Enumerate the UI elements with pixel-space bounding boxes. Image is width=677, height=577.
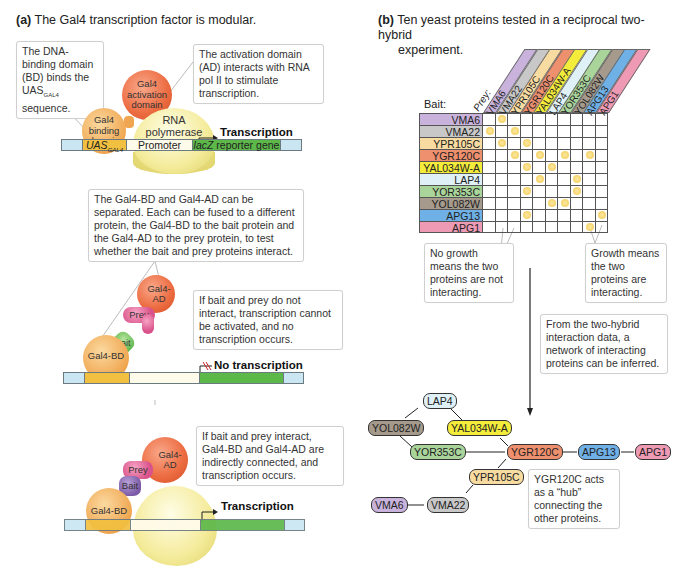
grid-cell (583, 197, 596, 209)
grid-cell (521, 221, 534, 233)
grid-cell (521, 149, 534, 161)
grid-cell (496, 149, 509, 161)
callout-separated: The Gal4-BD and Gal4-AD can be separated… (88, 189, 304, 262)
grid-cell (546, 209, 559, 221)
grid-cell (496, 197, 509, 209)
grid-cell (571, 137, 584, 149)
promoter-segment: Promoter (127, 140, 193, 150)
node-apg1: APG1 (635, 444, 671, 460)
grid-cell (583, 137, 596, 149)
growth-dot (548, 163, 556, 171)
grid-cell (558, 113, 571, 125)
grid-cell (571, 125, 584, 137)
callout-no-growth: No growth means the two proteins are not… (424, 243, 514, 303)
grid-cell (533, 125, 546, 137)
grid-cell (596, 185, 609, 197)
growth-dot (598, 211, 606, 219)
reporter-segment: lacZ reporter gene (193, 140, 281, 150)
grid-cell (571, 161, 584, 173)
node-yor353c: YOR353C (410, 444, 466, 460)
grid-cell (571, 113, 584, 125)
growth-dot (573, 187, 581, 195)
bait-label-apg1: APG1 (419, 221, 483, 233)
grid-cell (558, 173, 571, 185)
dna-strand-2 (63, 372, 304, 384)
grid-cell (483, 185, 496, 197)
callout-bd-sub: GAL4 (44, 92, 59, 98)
callout-no-interact: If bait and prey do not interact, transc… (193, 290, 343, 350)
bait-label-ypr105c: YPR105C (419, 137, 483, 149)
grid-cell (546, 173, 559, 185)
uas-segment (86, 520, 131, 530)
grid-cell (596, 197, 609, 209)
growth-dot (498, 139, 506, 147)
grid-cell (583, 161, 596, 173)
callout-binding-domain: The DNA-binding domain (BD) binds the UA… (16, 41, 104, 119)
grid-cell (508, 161, 521, 173)
grid-cell (508, 221, 521, 233)
grid-cell (558, 221, 571, 233)
grid-cell (508, 185, 521, 197)
grid-cell (533, 113, 546, 125)
node-ypr105c: YPR105C (469, 469, 524, 485)
grid-cell (508, 137, 521, 149)
grid-cell (533, 137, 546, 149)
growth-dot (523, 139, 531, 147)
no-transcription-label: No transcription (214, 359, 303, 371)
grid-cell (546, 185, 559, 197)
grid-cell (571, 149, 584, 161)
grid-cell (521, 113, 534, 125)
grid-cell (533, 161, 546, 173)
grid-cell (496, 209, 509, 221)
dna-spacer (285, 520, 304, 530)
node-vma6: VMA6 (371, 497, 408, 513)
grid-cell (558, 209, 571, 221)
grid-cell (558, 185, 571, 197)
node-lap4: LAP4 (423, 393, 457, 409)
grid-cell (496, 173, 509, 185)
grid-cell (596, 113, 609, 125)
grid-cell (508, 197, 521, 209)
growth-dot (498, 115, 506, 123)
grid-cell (483, 137, 496, 149)
growth-dot (548, 199, 556, 207)
bait-label-ygr120c: YGR120C (419, 149, 483, 161)
node-apg13: APG13 (578, 444, 620, 460)
transcription-label-3: Transcription (221, 500, 294, 512)
callout-hub: YGR120C acts as a “hub” connecting the o… (528, 469, 620, 529)
grid-cell (533, 185, 546, 197)
grid-cell (533, 209, 546, 221)
grid-cell (483, 221, 496, 233)
node-ygr120c: YGR120C (507, 444, 563, 460)
grid-cell (596, 173, 609, 185)
growth-dot (511, 151, 519, 159)
node-yal034w-a: YAL034W-A (447, 420, 512, 436)
grid-cell (596, 221, 609, 233)
grid-cell (571, 197, 584, 209)
grid-cell (483, 173, 496, 185)
grid-cell (571, 221, 584, 233)
grid-cell (546, 125, 559, 137)
callout-activation-domain: The activation domain (AD) interacts wit… (193, 44, 324, 104)
grid-cell (533, 221, 546, 233)
grid-cell (483, 161, 496, 173)
bait-label-vma6: VMA6 (419, 113, 483, 125)
panel-b-title-line1: Ten yeast proteins tested in a reciproca… (378, 13, 645, 42)
reporter-label: reporter gene (213, 139, 279, 151)
growth-dot (536, 175, 544, 183)
grid-cell (508, 209, 521, 221)
panel-b-label: (b) (378, 13, 394, 27)
grid-cell (496, 185, 509, 197)
grid-cell (558, 161, 571, 173)
uas-segment: UASGAL4 (83, 140, 127, 150)
growth-dot (523, 187, 531, 195)
dna-strand-3 (64, 519, 305, 531)
uas-label: UAS (86, 139, 108, 151)
grid-cell (583, 173, 596, 185)
panel-b-title-line2: experiment. (378, 43, 463, 57)
growth-dot (523, 163, 531, 171)
grid-cell (508, 113, 521, 125)
growth-dot (523, 211, 531, 219)
bait-label-vma22: VMA22 (419, 125, 483, 137)
bait-header: Bait: (424, 98, 446, 110)
